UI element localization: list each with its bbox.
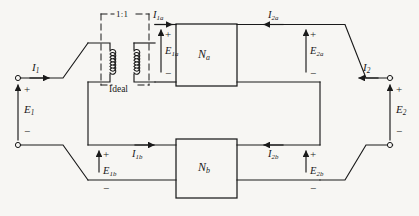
e2a-minus-sign: −: [310, 68, 316, 79]
current-i1b-label: I1b: [132, 149, 142, 161]
right-port-wires: [320, 25, 393, 181]
current-i2-label: I2: [363, 62, 370, 75]
transformer-dashed-enclosure: [101, 14, 149, 85]
e1a-plus-sign: +: [165, 29, 171, 40]
transformer-primary-coil: [110, 49, 116, 74]
voltage-e2a-label: E2a: [310, 46, 323, 58]
e2b-plus-sign: +: [310, 149, 316, 160]
e1a-minus-sign: −: [165, 68, 171, 79]
e1b-plus-sign: +: [103, 149, 109, 160]
e2-minus-sign: −: [396, 126, 402, 137]
voltage-e1a-label: E1a: [165, 46, 178, 58]
e2-plus-sign: +: [396, 84, 402, 95]
ideal-transformer-wiring: [88, 43, 155, 82]
e1-minus-sign: −: [24, 126, 30, 137]
current-i2a-label: I2a: [268, 10, 278, 22]
network-na-label: Na: [198, 48, 210, 62]
port-voltage-arrows: [18, 85, 390, 140]
current-i1a-label: I1a: [153, 10, 163, 22]
current-i1-label: I1: [32, 62, 39, 75]
voltage-e2b-label: E2b: [310, 166, 323, 178]
voltage-e2-label: E2: [396, 104, 406, 117]
current-i2b-label: I2b: [268, 149, 278, 161]
e2b-minus-sign: −: [310, 183, 316, 194]
e2a-plus-sign: +: [310, 29, 316, 40]
e1b-minus-sign: −: [103, 183, 109, 194]
e1-plus-sign: +: [24, 84, 30, 95]
circuit-schematic-canvas: [0, 0, 419, 216]
network-nb-label: Nb: [198, 161, 210, 175]
voltage-e1b-label: E1b: [103, 166, 116, 178]
circuit-diagram-figure: 1:1 Ideal Na Nb I1 E1 + − I2 E2 + − I1a …: [0, 0, 419, 216]
transformer-ratio-label: 1:1: [116, 10, 128, 19]
transformer-secondary-coil: [134, 49, 140, 74]
voltage-e1-label: E1: [24, 104, 34, 117]
transformer-name-label: Ideal: [109, 85, 128, 95]
